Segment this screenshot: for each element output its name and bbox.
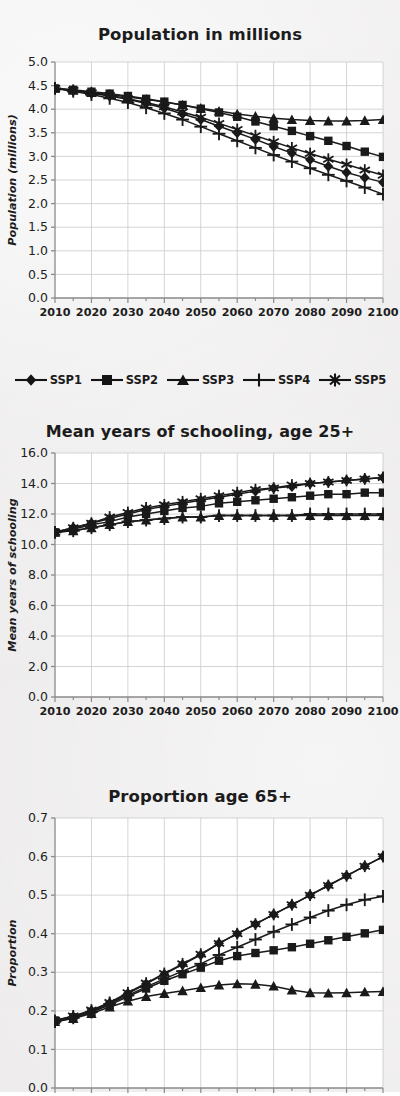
plot-area-proportion65: 0.00.10.20.30.40.50.60.7Proportion (0, 806, 400, 1096)
svg-text:0.3: 0.3 (28, 964, 48, 979)
chart-title-population: Population in millions (0, 0, 400, 44)
svg-text:3.5: 3.5 (28, 125, 48, 140)
svg-text:14.0: 14.0 (20, 476, 48, 491)
svg-text:0.4: 0.4 (28, 926, 48, 941)
diamond-icon (14, 372, 48, 388)
svg-text:2090: 2090 (331, 306, 362, 319)
svg-text:2100: 2100 (367, 705, 398, 718)
svg-text:8.0: 8.0 (28, 567, 48, 582)
svg-text:0.5: 0.5 (28, 887, 48, 902)
svg-text:2030: 2030 (112, 705, 143, 718)
line-chart-schooling: 0.02.04.06.08.010.012.014.016.0201020202… (0, 441, 400, 741)
svg-text:6.0: 6.0 (28, 598, 48, 613)
svg-text:4.5: 4.5 (28, 78, 48, 93)
svg-text:Population (millions): Population (millions) (6, 114, 19, 246)
svg-text:Mean years of schooling: Mean years of schooling (6, 498, 19, 651)
legend-ssp: SSP1 SSP2 SSP3 SSP4 (0, 372, 400, 388)
figure-population: Population in millions 0.00.51.01.52.02.… (0, 0, 400, 400)
svg-text:Proportion: Proportion (6, 919, 19, 986)
svg-text:2090: 2090 (331, 705, 362, 718)
line-chart-population: 0.00.51.01.52.02.53.03.54.04.55.02010202… (0, 44, 400, 344)
svg-text:2010: 2010 (39, 705, 70, 718)
svg-text:2040: 2040 (149, 306, 180, 319)
svg-text:2010: 2010 (39, 306, 70, 319)
svg-text:2.5: 2.5 (28, 172, 48, 187)
svg-text:2100: 2100 (367, 306, 398, 319)
chart-title-proportion65: Proportion age 65+ (0, 755, 400, 806)
svg-text:2060: 2060 (222, 705, 253, 718)
svg-text:2050: 2050 (185, 306, 216, 319)
svg-text:2.0: 2.0 (28, 659, 48, 674)
triangle-icon (166, 372, 200, 388)
svg-text:12.0: 12.0 (20, 506, 48, 521)
legend-label-ssp4: SSP4 (278, 373, 310, 387)
svg-text:2080: 2080 (295, 705, 326, 718)
svg-text:0.5: 0.5 (28, 267, 48, 282)
legend-label-ssp2: SSP2 (126, 373, 158, 387)
svg-text:4.0: 4.0 (28, 101, 48, 116)
svg-text:2020: 2020 (76, 705, 107, 718)
svg-text:2060: 2060 (222, 306, 253, 319)
svg-text:4.0: 4.0 (28, 628, 48, 643)
line-chart-proportion65: 0.00.10.20.30.40.50.60.7Proportion (0, 806, 400, 1096)
legend-label-ssp3: SSP3 (202, 373, 234, 387)
figure-schooling: Mean years of schooling, age 25+ 0.02.04… (0, 400, 400, 755)
svg-text:0.0: 0.0 (28, 689, 48, 704)
svg-text:0.2: 0.2 (28, 1003, 48, 1018)
svg-text:1.0: 1.0 (28, 243, 48, 258)
svg-text:16.0: 16.0 (20, 445, 48, 460)
legend-item-ssp1[interactable]: SSP1 (14, 372, 82, 388)
square-icon (90, 372, 124, 388)
svg-text:3.0: 3.0 (28, 149, 48, 164)
legend-item-ssp5[interactable]: SSP5 (318, 372, 386, 388)
svg-text:2030: 2030 (112, 306, 143, 319)
figure-proportion65: Proportion age 65+ 0.00.10.20.30.40.50.6… (0, 755, 400, 1092)
plot-area-schooling: 0.02.04.06.08.010.012.014.016.0201020202… (0, 441, 400, 741)
legend-item-ssp3[interactable]: SSP3 (166, 372, 234, 388)
svg-text:2070: 2070 (258, 705, 289, 718)
svg-text:0.0: 0.0 (28, 1080, 48, 1095)
plot-area-population: 0.00.51.01.52.02.53.03.54.04.55.02010202… (0, 44, 400, 344)
legend-item-ssp4[interactable]: SSP4 (242, 372, 310, 388)
legend-label-ssp1: SSP1 (50, 373, 82, 387)
svg-text:5.0: 5.0 (28, 54, 48, 69)
plus-icon (242, 372, 276, 388)
svg-text:0.6: 0.6 (28, 849, 48, 864)
svg-text:0.7: 0.7 (28, 810, 48, 825)
legend-label-ssp5: SSP5 (354, 373, 386, 387)
svg-text:10.0: 10.0 (20, 537, 48, 552)
svg-text:2.0: 2.0 (28, 196, 48, 211)
chart-title-schooling: Mean years of schooling, age 25+ (0, 400, 400, 441)
svg-text:0.1: 0.1 (28, 1042, 48, 1057)
svg-text:2040: 2040 (149, 705, 180, 718)
asterisk-icon (318, 372, 352, 388)
svg-text:2080: 2080 (295, 306, 326, 319)
svg-text:0.0: 0.0 (28, 290, 48, 305)
svg-text:2070: 2070 (258, 306, 289, 319)
svg-text:1.5: 1.5 (28, 219, 48, 234)
svg-text:2020: 2020 (76, 306, 107, 319)
svg-text:2050: 2050 (185, 705, 216, 718)
legend-item-ssp2[interactable]: SSP2 (90, 372, 158, 388)
